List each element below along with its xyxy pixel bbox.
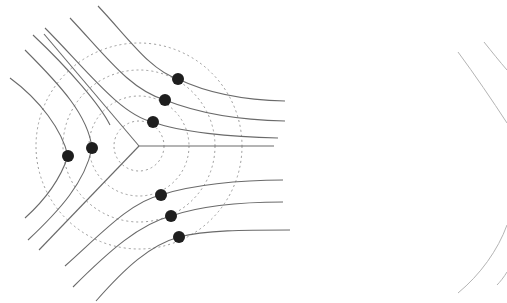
edge-curve-upper-2: [484, 42, 507, 70]
flow-line-upper-1: [98, 6, 285, 101]
junction-lines: [39, 34, 274, 250]
particle-dot: [147, 116, 159, 128]
flow-line-lower-2: [73, 202, 283, 287]
left-flow-lines: [10, 35, 110, 240]
flow-line-upper-2: [70, 18, 285, 121]
particle-dot: [62, 150, 74, 162]
upper-flow-lines: [45, 6, 285, 138]
particle-dot: [165, 210, 177, 222]
diagram-canvas: [0, 0, 507, 303]
particle-dots: [62, 73, 185, 243]
particle-dot: [159, 94, 171, 106]
junction-branch-lower-left: [39, 146, 139, 250]
edge-curve-lower-2: [497, 272, 507, 285]
junction-branch-upper-left: [44, 34, 139, 146]
particle-dot: [155, 189, 167, 201]
adjacent-figure-fragment: [458, 42, 507, 293]
particle-dot: [172, 73, 184, 85]
flow-line-lower-1: [65, 180, 283, 266]
edge-curve-upper-1: [458, 52, 507, 123]
field-line-diagram: [0, 0, 507, 303]
particle-dot: [86, 142, 98, 154]
flow-line-left-1: [10, 78, 68, 218]
particle-dot: [173, 231, 185, 243]
